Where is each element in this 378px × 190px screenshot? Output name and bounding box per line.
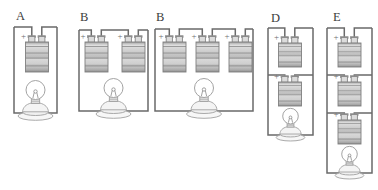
battery-terminal: [166, 37, 172, 43]
battery-terminal: [351, 77, 357, 83]
battery-body: [163, 42, 186, 72]
circuit-4-D: D++: [268, 11, 313, 141]
battery-terminal: [351, 38, 357, 44]
circuit-label: E: [333, 10, 341, 24]
polarity-plus-mark: +: [274, 71, 279, 81]
polarity-plus-mark: +: [80, 31, 85, 41]
battery: [229, 36, 252, 72]
light-bulb: [276, 108, 305, 141]
bulb-socket-skirt: [23, 103, 49, 112]
bulb-socket-skirt: [101, 101, 127, 110]
battery-terminal: [341, 77, 347, 83]
battery: [163, 36, 186, 72]
bulb-socket-skirt: [339, 165, 360, 172]
circuit-label: B: [156, 10, 164, 24]
figure-canvas: A+B++B+++D++E+++: [0, 0, 378, 190]
circuit-label: D: [271, 11, 280, 25]
battery-terminal: [341, 115, 347, 121]
battery-terminal: [39, 37, 45, 43]
battery-body: [26, 42, 49, 72]
battery-terminal: [292, 77, 298, 83]
battery: [338, 76, 361, 106]
circuit-2-B: B++: [79, 10, 148, 118]
battery-body: [279, 43, 302, 67]
polarity-plus-mark: +: [333, 71, 338, 81]
circuit-5-E: E+++: [327, 10, 372, 179]
circuit-label: B: [80, 10, 88, 24]
battery-body: [196, 42, 219, 72]
battery: [279, 37, 302, 67]
polarity-plus-mark: +: [158, 31, 163, 41]
light-bulb: [18, 81, 53, 121]
light-bulb: [96, 79, 131, 119]
polarity-plus-mark: +: [333, 109, 338, 119]
battery-body: [279, 82, 302, 106]
polarity-plus-mark: +: [333, 32, 338, 42]
bulb-socket-skirt: [191, 101, 217, 110]
battery: [196, 36, 219, 72]
circuit-3-B: B+++: [155, 10, 253, 118]
polarity-plus-mark: +: [274, 32, 279, 42]
battery-body: [229, 42, 252, 72]
battery: [338, 37, 361, 67]
circuit-diagram: A+B++B+++D++E+++: [0, 0, 378, 190]
battery-body: [338, 82, 361, 106]
battery-terminal: [351, 115, 357, 121]
battery-body: [338, 120, 361, 144]
bulb-socket-skirt: [280, 127, 301, 134]
battery-terminal: [292, 38, 298, 44]
battery: [26, 36, 49, 72]
battery-terminal: [125, 37, 131, 43]
battery-body: [122, 42, 145, 72]
battery-terminal: [29, 37, 35, 43]
battery: [279, 76, 302, 106]
battery-body: [85, 42, 108, 72]
light-bulb: [187, 79, 222, 119]
polarity-plus-mark: +: [191, 31, 196, 41]
battery-body: [338, 43, 361, 67]
battery: [338, 114, 361, 144]
battery-terminal: [135, 37, 141, 43]
polarity-plus-mark: +: [224, 31, 229, 41]
battery: [122, 36, 145, 72]
battery-terminal: [282, 38, 288, 44]
light-bulb: [335, 146, 364, 179]
polarity-plus-mark: +: [117, 31, 122, 41]
battery-terminal: [341, 38, 347, 44]
battery-terminal: [176, 37, 182, 43]
battery-terminal: [98, 37, 104, 43]
battery-terminal: [199, 37, 205, 43]
polarity-plus-mark: +: [21, 31, 26, 41]
circuit-1-A: A+: [14, 9, 57, 120]
circuit-label: A: [16, 9, 25, 23]
battery: [85, 36, 108, 72]
battery-terminal: [88, 37, 94, 43]
battery-terminal: [242, 37, 248, 43]
battery-terminal: [232, 37, 238, 43]
battery-terminal: [282, 77, 288, 83]
battery-terminal: [209, 37, 215, 43]
